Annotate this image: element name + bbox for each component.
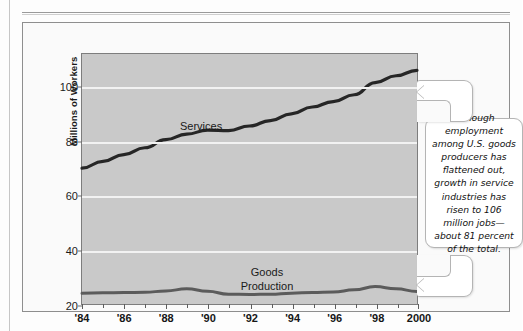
top-horizontal-rule <box>22 12 510 15</box>
x-axis-minor-tick-mark <box>272 304 273 308</box>
gridline <box>82 251 417 253</box>
figure-box: Services Goods Production Millions of Wo… <box>22 22 510 312</box>
x-axis-tick-mark <box>293 304 294 309</box>
series-label-services: Services <box>180 120 222 134</box>
x-axis-tick-mark <box>166 304 167 309</box>
x-axis-minor-tick-mark <box>356 304 357 308</box>
x-axis-minor-tick-mark <box>314 304 315 308</box>
x-axis-minor-tick-mark <box>187 304 188 308</box>
x-axis-tick-label: '98 <box>369 312 384 324</box>
series-label-goods-line1: Goods <box>241 266 294 280</box>
gridline <box>82 87 417 89</box>
gridline <box>82 142 417 144</box>
y-axis-tick-mark <box>78 86 82 87</box>
series-label-goods-production: Goods Production <box>241 266 294 294</box>
y-axis-tick-mark <box>78 196 82 197</box>
x-axis-minor-tick-mark <box>145 304 146 308</box>
callout-pointer-top-arrow-icon <box>417 85 425 99</box>
x-axis-tick-mark <box>251 304 252 309</box>
x-axis-tick-mark <box>208 304 209 309</box>
chart-plot-area: Services Goods Production Millions of Wo… <box>81 53 418 305</box>
x-axis-tick-mark <box>124 304 125 309</box>
x-axis-tick-label: '88 <box>159 312 174 324</box>
x-axis-tick-label: '86 <box>117 312 132 324</box>
x-axis-tick-mark <box>335 304 336 309</box>
callout-text: Although employment among U.S. goods pro… <box>431 111 517 255</box>
y-axis-tick-mark <box>78 251 82 252</box>
callout-pointer-bottom <box>417 255 473 297</box>
y-axis-tick-label: 100 <box>60 81 78 93</box>
series-line-services <box>82 70 417 168</box>
y-axis-tick-mark <box>78 141 82 142</box>
page-edge-rule <box>9 0 10 331</box>
callout-pointer-bottom-cut <box>417 255 451 277</box>
x-axis-tick-mark <box>377 304 378 309</box>
series-label-goods-line2: Production <box>241 280 294 294</box>
y-axis-tick-label: 80 <box>66 136 78 148</box>
x-axis-minor-tick-mark <box>398 304 399 308</box>
x-axis-tick-mark <box>82 304 83 309</box>
x-axis-minor-tick-mark <box>103 304 104 308</box>
x-axis-tick-label: '92 <box>243 312 258 324</box>
x-axis-tick-label: '94 <box>285 312 300 324</box>
x-axis-tick-label: '90 <box>201 312 216 324</box>
x-axis-tick-label: 2000 <box>407 312 431 324</box>
x-axis-tick-label: '84 <box>75 312 90 324</box>
y-axis-tick-label: 40 <box>66 245 78 257</box>
callout-pointer-bottom-arrow-icon <box>417 278 425 292</box>
callout-pointer-top-cut <box>417 100 451 122</box>
gridline <box>82 196 417 198</box>
x-axis-minor-tick-mark <box>229 304 230 308</box>
callout-pointer-top <box>417 80 473 122</box>
x-axis-tick-label: '96 <box>327 312 342 324</box>
callout-box: Although employment among U.S. goods pro… <box>425 118 523 248</box>
x-axis-tick-mark <box>418 304 419 309</box>
series-label-services-text: Services <box>180 120 222 132</box>
y-axis-tick-label: 20 <box>66 300 78 312</box>
y-axis-tick-label: 60 <box>66 190 78 202</box>
y-axis-title: Millions of Workers <box>68 57 79 146</box>
